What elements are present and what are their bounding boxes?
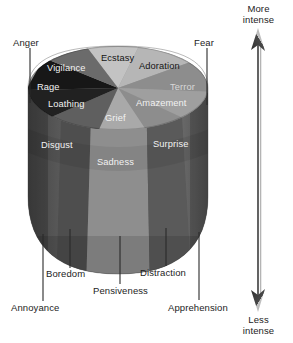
segment-label-amazement: Amazement — [136, 99, 187, 108]
segment-label-surprise: Surprise — [153, 140, 188, 149]
segment-label-vigilance: Vigilance — [47, 64, 85, 73]
intensity-axis-arrow — [251, 28, 265, 312]
axis-less-line2: intense — [231, 325, 286, 336]
segment-label-loathing: Loathing — [48, 100, 84, 109]
axis-more-line1: More — [231, 3, 286, 14]
callout-apprehension: Apprehension — [168, 303, 228, 313]
callout-annoyance: Annoyance — [11, 303, 59, 313]
segment-label-disgust: Disgust — [41, 141, 73, 150]
segment-label-grief: Grief — [105, 114, 126, 123]
figure-canvas: Ecstasy Adoration Terror Amazement Grief… — [0, 0, 293, 343]
callout-boredom: Boredom — [46, 269, 85, 279]
callout-anger: Anger — [13, 38, 39, 48]
callout-pensiveness: Pensiveness — [93, 286, 148, 296]
axis-caption-more: More intense — [231, 3, 286, 25]
segment-label-ecstasy: Ecstasy — [101, 54, 134, 63]
segment-label-sadness: Sadness — [97, 158, 134, 167]
callout-distraction: Distraction — [140, 268, 186, 278]
axis-less-line1: Less — [231, 314, 286, 325]
axis-more-line2: intense — [231, 14, 286, 25]
segment-label-adoration: Adoration — [139, 62, 180, 71]
axis-caption-less: Less intense — [231, 314, 286, 336]
segment-label-terror: Terror — [170, 83, 195, 92]
callout-fear: Fear — [194, 38, 214, 48]
segment-label-rage: Rage — [37, 83, 60, 92]
